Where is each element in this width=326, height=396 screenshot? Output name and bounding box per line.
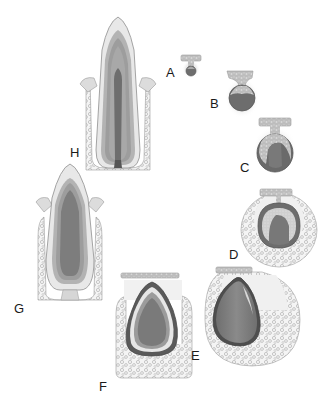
label-h: H	[70, 146, 79, 159]
label-f: F	[99, 380, 107, 393]
label-c: C	[240, 161, 249, 174]
label-b: B	[210, 97, 219, 110]
label-a: A	[166, 66, 175, 79]
stage-h-erupted	[80, 17, 156, 170]
label-e: E	[191, 349, 200, 362]
stage-e-bell	[205, 267, 300, 366]
stage-b-cap	[225, 71, 259, 118]
stage-f-crown	[116, 273, 192, 378]
tooth-development-diagram: A B C D E F G H	[0, 0, 326, 396]
stage-g-eruption	[36, 164, 104, 300]
diagram-canvas	[0, 0, 326, 396]
label-g: G	[14, 302, 24, 315]
stage-c-cap	[253, 118, 297, 174]
stage-d-bell	[241, 189, 317, 267]
stage-a-bud	[181, 55, 201, 78]
label-d: D	[229, 248, 238, 261]
